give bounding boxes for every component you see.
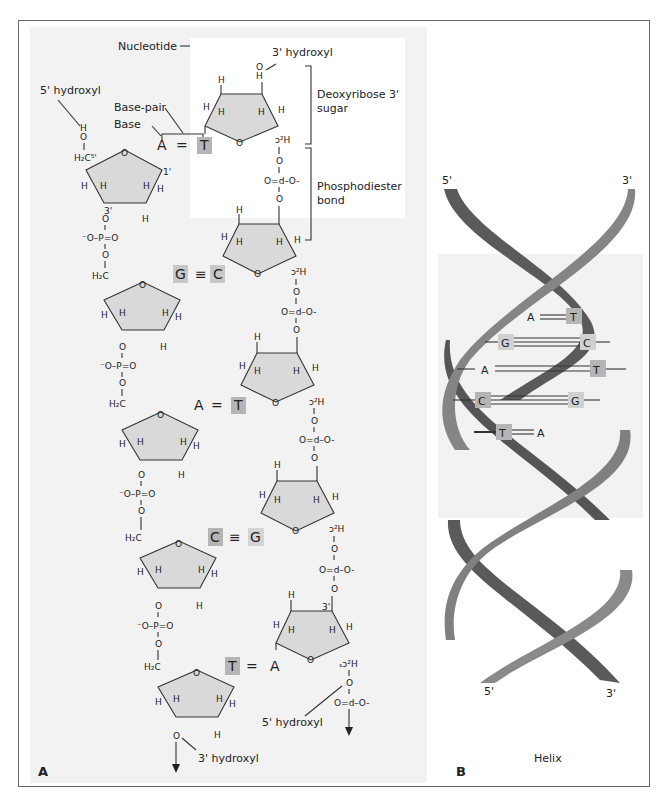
svg-text:O: O (292, 526, 299, 536)
svg-text:ɔ²H: ɔ²H (275, 135, 290, 145)
svg-text:H: H (193, 441, 200, 451)
svg-text:H: H (218, 75, 225, 85)
svg-text:O: O (346, 678, 353, 688)
svg-text:H: H (236, 237, 243, 247)
svg-text:H: H (216, 694, 223, 704)
svg-text:T: T (592, 364, 600, 377)
svg-text:G: G (571, 395, 580, 408)
helix-top-right-end: 3' (622, 174, 632, 187)
svg-text:H: H (221, 232, 228, 242)
svg-text:O: O (173, 731, 180, 741)
svg-text:O: O (331, 544, 338, 554)
svg-text:3': 3' (322, 602, 330, 612)
five-hydroxyl-label-top: 5' hydroxyl (40, 84, 101, 97)
svg-text:T: T (498, 427, 506, 440)
svg-text:H: H (294, 235, 301, 245)
dna-structure-diagram: Nucleotide 5' hydroxyl H O H₂C⁵' Base-pa… (0, 0, 670, 810)
svg-text:H₂C: H₂C (92, 271, 109, 281)
svg-text:H₂C: H₂C (109, 399, 126, 409)
svg-text:O: O (193, 668, 200, 678)
deoxyribose-label-line1: Deoxyribose 3' (317, 88, 399, 101)
svg-text:1': 1' (163, 167, 171, 177)
sugar-ring-left-2: O H H H H H (101, 280, 182, 352)
svg-text:A: A (537, 427, 545, 440)
arrow-down-icon (345, 727, 353, 736)
base-a-5: A (270, 658, 280, 674)
svg-text:O: O (102, 214, 109, 224)
svg-text:H: H (160, 342, 167, 352)
svg-text:⁻O–P=O: ⁻O–P=O (119, 489, 155, 499)
svg-text:H: H (332, 492, 339, 502)
svg-text:ₛɔ²H: ₛɔ²H (339, 659, 358, 669)
svg-text:⁻O–P=O: ⁻O–P=O (100, 361, 136, 371)
svg-text:H: H (119, 439, 126, 449)
svg-text:H: H (203, 102, 210, 112)
svg-text:H: H (155, 697, 162, 707)
svg-text:H: H (254, 366, 261, 376)
svg-text:H₂C⁵': H₂C⁵' (74, 153, 97, 163)
svg-text:H: H (180, 437, 187, 447)
helix-caption: Helix (534, 752, 562, 765)
svg-text:H: H (142, 214, 149, 224)
base-a-3: A (194, 397, 204, 413)
sugar-ring-left-4: O H H H H H (137, 539, 218, 611)
helix-bottom-left-end: 5' (484, 685, 494, 698)
svg-text:O: O (138, 506, 145, 516)
svg-text:O: O (236, 138, 243, 148)
svg-text:ɔ²H: ɔ²H (329, 524, 344, 534)
svg-text:H: H (274, 495, 281, 505)
svg-text:O: O (293, 287, 300, 297)
svg-text:=: = (211, 397, 223, 413)
svg-text:H₂C: H₂C (144, 662, 161, 672)
nucleotide-label: Nucleotide (118, 40, 177, 53)
svg-text:O=d–O-: O=d–O- (299, 435, 334, 445)
svg-text:H: H (137, 437, 144, 447)
base-g-2: G (175, 266, 186, 282)
svg-text:H: H (178, 470, 185, 480)
svg-text:O: O (157, 410, 164, 420)
svg-text:H: H (313, 495, 320, 505)
svg-text:H: H (218, 107, 225, 117)
svg-text:O: O (119, 378, 126, 388)
svg-text:O=d–O-: O=d–O- (264, 176, 299, 186)
base-c-4: C (210, 529, 220, 545)
svg-text:H: H (101, 310, 108, 320)
svg-text:O: O (272, 398, 279, 408)
svg-text:H: H (254, 332, 261, 342)
svg-text:O: O (121, 148, 128, 158)
svg-text:H: H (236, 205, 243, 215)
svg-text:H: H (175, 312, 182, 322)
svg-text:O: O (293, 325, 300, 335)
svg-text:H: H (329, 625, 336, 635)
svg-text:H: H (143, 181, 150, 191)
svg-text:H: H (278, 105, 285, 115)
three-hydroxyl-label-top: 3' hydroxyl (272, 46, 333, 59)
svg-text:O: O (307, 655, 314, 665)
sugar-ring-right-3: H H H H H O ɔ²H (239, 332, 324, 408)
svg-text:O: O (311, 453, 318, 463)
svg-text:O: O (254, 269, 261, 279)
base-t-3: T (233, 397, 243, 413)
sugar-ring-left-3: O H H H H H (119, 410, 200, 480)
svg-text:A: A (481, 364, 489, 377)
svg-text:H: H (173, 694, 180, 704)
svg-text:=: = (246, 658, 258, 674)
svg-text:O: O (276, 156, 283, 166)
svg-text:ɔ²H: ɔ²H (309, 397, 324, 407)
svg-text:O: O (276, 194, 283, 204)
svg-text:≡: ≡ (229, 529, 241, 545)
panel-b-letter: B (456, 764, 466, 779)
svg-text:H: H (119, 308, 126, 318)
sugar-ring-right-5: H 3' H H H H O ₛɔ²H (273, 590, 358, 669)
base-c-2: C (213, 266, 223, 282)
svg-text:H: H (157, 184, 164, 194)
svg-text:H: H (312, 363, 319, 373)
svg-text:H: H (274, 460, 281, 470)
svg-text:O: O (331, 584, 338, 594)
base-a-1: A (157, 137, 167, 153)
svg-text:H: H (273, 620, 280, 630)
svg-text:H: H (100, 181, 107, 191)
svg-text:⁻O–P=O: ⁻O–P=O (137, 621, 173, 631)
svg-text:T: T (569, 311, 577, 324)
base-t-1: T (199, 137, 209, 153)
